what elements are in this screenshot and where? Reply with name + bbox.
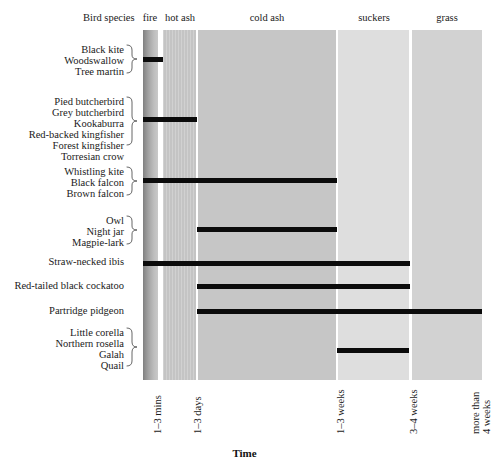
band-suckers bbox=[338, 30, 409, 380]
bar-partridge-pidgeon bbox=[197, 309, 482, 314]
band-header-cold-ash: cold ash bbox=[222, 12, 312, 24]
species-label: Partridge pidgeon bbox=[49, 305, 124, 317]
species-label: Black kite bbox=[81, 44, 124, 56]
species-label: Magpie-lark bbox=[72, 237, 124, 249]
x-tick-label-4: 3–4 weeks bbox=[408, 389, 420, 434]
species-label: Little corella bbox=[70, 327, 124, 339]
brace-group-8 bbox=[127, 328, 137, 366]
species-label: Kookaburra bbox=[74, 118, 124, 130]
bar-group-4 bbox=[197, 227, 337, 232]
x-tick-label-5a: more than bbox=[470, 392, 482, 434]
bar-group-2 bbox=[143, 117, 197, 122]
species-label: Galah bbox=[99, 349, 124, 361]
brace-group-1 bbox=[127, 45, 137, 73]
species-label: Black falcon bbox=[71, 177, 124, 189]
species-label: Pied butcherbird bbox=[54, 96, 124, 108]
bar-red-tailed-black-cockatoo bbox=[197, 284, 410, 289]
species-label: Whistling kite bbox=[64, 166, 124, 178]
species-label: Forest kingfisher bbox=[53, 140, 124, 152]
species-label: Red-backed kingfisher bbox=[29, 129, 124, 141]
band-header-suckers: suckers bbox=[348, 12, 400, 24]
bar-group-3 bbox=[143, 178, 337, 183]
band-header-grass: grass bbox=[425, 12, 469, 24]
brace-group-3 bbox=[127, 167, 137, 195]
group-braces bbox=[125, 40, 147, 440]
brace-group-2 bbox=[127, 97, 137, 145]
species-label: Torresian crow bbox=[61, 151, 124, 163]
x-tick-label-5b: 4 weeks bbox=[481, 400, 493, 434]
species-label: Grey butcherbird bbox=[52, 107, 124, 119]
species-label-column: Black kite Woodswallow Tree martin Pied … bbox=[0, 0, 124, 464]
brace-group-4 bbox=[127, 216, 137, 244]
species-label: Straw-necked ibis bbox=[48, 256, 124, 268]
band-hot-ash bbox=[163, 30, 196, 380]
plot-area bbox=[143, 30, 482, 380]
x-tick-label-3: 1–3 weeks bbox=[335, 389, 347, 434]
band-cold-ash bbox=[198, 30, 336, 380]
species-label: Northern rosella bbox=[55, 338, 124, 350]
species-label: Tree martin bbox=[75, 66, 124, 78]
bar-straw-necked-ibis bbox=[143, 261, 410, 266]
band-grass bbox=[412, 30, 482, 380]
species-label: Red-tailed black cockatoo bbox=[14, 280, 124, 292]
species-label: Owl bbox=[106, 215, 124, 227]
x-tick-label-2: 1–3 days bbox=[192, 396, 204, 434]
x-axis-title: Time bbox=[0, 447, 489, 459]
species-label: Woodswallow bbox=[64, 55, 124, 67]
x-tick-label-1: 1–3 mins bbox=[152, 395, 164, 434]
species-label: Night jar bbox=[86, 226, 124, 238]
bar-group-8 bbox=[337, 348, 409, 353]
species-label: Brown falcon bbox=[67, 188, 124, 200]
band-header-hot-ash: hot ash bbox=[156, 12, 204, 24]
species-label: Quail bbox=[101, 360, 124, 372]
